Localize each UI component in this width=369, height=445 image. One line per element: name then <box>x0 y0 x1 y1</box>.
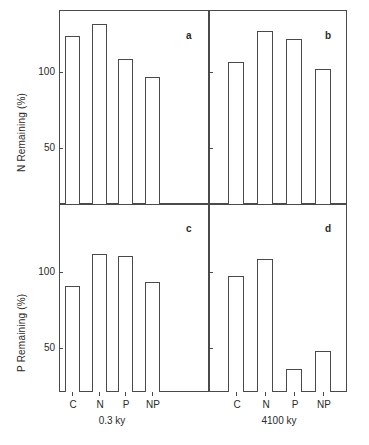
panel-a-tick-100 <box>59 72 63 73</box>
panel-b-bar-N <box>257 31 273 204</box>
xtick-b-NP <box>323 392 324 396</box>
xtick-b-C <box>236 392 237 396</box>
panel-d-bar-N <box>257 259 273 392</box>
panel-d-bar-C <box>228 276 244 392</box>
panel-d-bar-P <box>286 369 302 392</box>
panel-c-ytick-100: 100 <box>31 266 55 277</box>
panel-c-tick-100 <box>59 272 63 273</box>
panel-d-tick-50 <box>209 348 213 349</box>
panel-c-bar-N <box>92 254 107 392</box>
panel-c-letter: c <box>186 223 192 234</box>
panel-a-letter: a <box>186 30 192 41</box>
xtick-a-P <box>125 392 126 396</box>
panel-c-tick-50 <box>59 348 63 349</box>
xtick-label-left-NP: NP <box>140 399 166 410</box>
xtick-a-N <box>99 392 100 396</box>
panel-a-bar-NP <box>145 77 160 204</box>
panel-d-tick-100 <box>209 272 213 273</box>
panel-b-bar-P <box>286 39 302 204</box>
xtick-b-P <box>294 392 295 396</box>
xtick-label-left-C: C <box>60 399 86 410</box>
xtick-label-right-NP: NP <box>311 399 337 410</box>
panel-b-tick-50 <box>209 148 213 149</box>
xtick-label-left-P: P <box>113 399 139 410</box>
y-axis-label-top: N Remaining (%) <box>16 93 27 172</box>
panel-a-ytick-100: 100 <box>31 66 55 77</box>
panel-c-bar-C <box>65 286 80 392</box>
xtick-a-C <box>72 392 73 396</box>
panel-a-bar-C <box>65 36 80 204</box>
panel-a-ytick-50: 50 <box>31 142 55 153</box>
panel-b-bar-C <box>228 62 244 204</box>
xtick-a-NP <box>152 392 153 396</box>
y-axis-label-bottom: P Remaining (%) <box>16 294 27 372</box>
caption-fragment <box>0 432 369 445</box>
panel-a-tick-50 <box>59 148 63 149</box>
xtick-label-right-C: C <box>224 399 250 410</box>
panel-d-letter: d <box>325 223 331 234</box>
group-label-left: 0.3 ky <box>77 415 147 426</box>
panel-c-bar-P <box>118 256 133 392</box>
panel-d-bar-NP <box>315 351 331 392</box>
panel-c-ytick-50: 50 <box>31 342 55 353</box>
figure-bar-chart-nutrient-remaining: N Remaining (%) P Remaining (%) a 100 50… <box>0 0 369 445</box>
panel-b-letter: b <box>325 30 331 41</box>
group-label-right: 4100 ky <box>244 415 314 426</box>
panel-a-bar-N <box>92 24 107 204</box>
panel-b-tick-100 <box>209 72 213 73</box>
xtick-label-left-N: N <box>87 399 113 410</box>
panel-a-bar-P <box>118 59 133 204</box>
xtick-label-right-N: N <box>253 399 279 410</box>
xtick-label-right-P: P <box>282 399 308 410</box>
panel-b-bar-NP <box>315 69 331 204</box>
panel-c-bar-NP <box>145 282 160 392</box>
xtick-b-N <box>265 392 266 396</box>
